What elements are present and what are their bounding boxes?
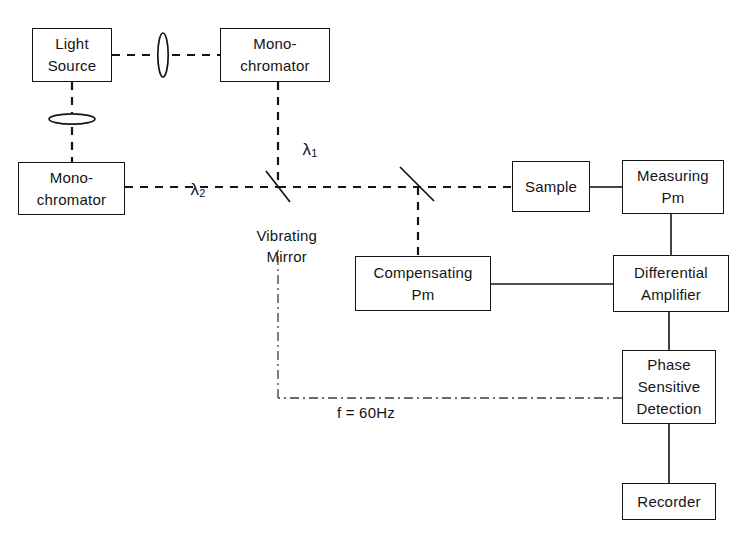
label-lambda-1: λ1	[285, 119, 318, 182]
block-recorder-line-1: Recorder	[637, 491, 700, 513]
lens-horizontal-icon	[46, 107, 98, 131]
block-phase-sensitive-detection[interactable]: Phase Sensitive Detection	[622, 350, 716, 424]
label-vibrating-mirror-line-1: Vibrating	[256, 227, 317, 244]
label-vibrating-mirror-line-2: Mirror	[267, 248, 307, 265]
diagram-canvas: Light Source Mono- chromator Mono- chrom…	[0, 0, 748, 539]
block-sample-line-1: Sample	[525, 176, 577, 198]
label-lambda-2-symbol: λ	[190, 180, 199, 199]
lens-vertical-icon	[151, 30, 175, 80]
block-monochromator-top-line-1: Mono-	[253, 33, 297, 55]
block-monochromator-top-line-2: chromator	[240, 55, 309, 77]
block-measuring-pm-line-1: Measuring	[637, 165, 709, 187]
beam-splitter-icon	[400, 167, 434, 201]
block-sample[interactable]: Sample	[512, 161, 590, 212]
block-light-source-line-1: Light	[55, 33, 89, 55]
label-reference-frequency: f = 60Hz	[305, 403, 427, 423]
block-light-source[interactable]: Light Source	[32, 28, 112, 82]
block-compensating-pm-line-2: Pm	[412, 284, 435, 306]
label-lambda-2-subscript: 2	[199, 188, 205, 200]
block-monochromator-top[interactable]: Mono- chromator	[220, 28, 330, 82]
block-recorder[interactable]: Recorder	[622, 483, 716, 520]
block-light-source-line-2: Source	[48, 55, 97, 77]
block-compensating-pm[interactable]: Compensating Pm	[355, 256, 491, 311]
label-vibrating-mirror: Vibrating Mirror	[222, 204, 334, 288]
label-lambda-1-symbol: λ	[302, 140, 311, 159]
block-measuring-pm[interactable]: Measuring Pm	[622, 160, 724, 214]
block-phase-sensitive-detection-line-3: Detection	[636, 398, 701, 420]
block-differential-amplifier-line-1: Differential	[634, 262, 708, 284]
block-phase-sensitive-detection-line-1: Phase	[647, 354, 691, 376]
label-lambda-1-subscript: 1	[311, 148, 317, 160]
block-phase-sensitive-detection-line-2: Sensitive	[638, 376, 701, 398]
label-lambda-2: λ2	[173, 159, 206, 222]
block-compensating-pm-line-1: Compensating	[373, 262, 472, 284]
block-monochromator-left[interactable]: Mono- chromator	[18, 162, 125, 215]
block-differential-amplifier-line-2: Amplifier	[641, 284, 701, 306]
block-monochromator-left-line-1: Mono-	[50, 167, 94, 189]
block-measuring-pm-line-2: Pm	[662, 187, 685, 209]
block-differential-amplifier[interactable]: Differential Amplifier	[613, 255, 729, 312]
block-monochromator-left-line-2: chromator	[37, 189, 106, 211]
